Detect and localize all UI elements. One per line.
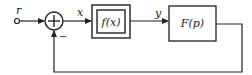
error-label: x	[77, 6, 84, 19]
linear-block: F(p)	[169, 6, 216, 41]
nonlinear-block: f(x)	[92, 5, 130, 38]
linear-block-label: F(p)	[180, 17, 204, 30]
block-diagram: r − x f(x) y F(p)	[0, 0, 252, 75]
summing-junction	[45, 12, 63, 30]
feedback-sign: −	[59, 31, 67, 42]
nonlinear-block-label: f(x)	[101, 16, 121, 29]
input-terminal	[15, 19, 20, 24]
intermediate-label: y	[154, 7, 162, 20]
input-label: r	[16, 4, 22, 17]
